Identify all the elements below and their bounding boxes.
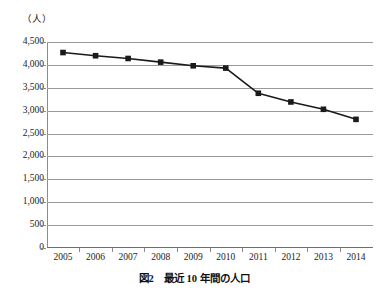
y-axis-tick-label: 3,000: [4, 105, 44, 115]
y-axis-tick-label: 2,500: [4, 128, 44, 138]
gridline: [47, 88, 373, 89]
y-axis-tick-mark: [41, 225, 46, 226]
y-axis-tick-mark: [41, 88, 46, 89]
figure-population-chart: （人） 図2 最近 10 年間の人口 4,5004,0003,5003,0002…: [0, 0, 388, 292]
y-axis-tick-mark: [41, 42, 46, 43]
y-axis-tick-label: 500: [4, 219, 44, 229]
gridline: [47, 179, 373, 180]
gridline: [47, 225, 373, 226]
y-axis-line: [47, 42, 48, 248]
y-axis-tick-label: 1,000: [4, 196, 44, 206]
y-axis-tick-mark: [41, 156, 46, 157]
y-axis-tick-mark: [41, 134, 46, 135]
gridline: [47, 156, 373, 157]
y-axis-unit-label: （人）: [22, 11, 52, 25]
y-axis-tick-mark: [41, 202, 46, 203]
x-axis-tick-label: 2014: [333, 252, 379, 262]
y-axis-tick-mark: [41, 248, 46, 249]
gridline: [47, 65, 373, 66]
plot-area: [47, 42, 373, 248]
figure-caption: 図2 最近 10 年間の人口: [0, 270, 388, 285]
y-axis-tick-label: 3,500: [4, 82, 44, 92]
y-axis-tick-label: 2,000: [4, 150, 44, 160]
y-axis-tick-label: 1,500: [4, 173, 44, 183]
gridline: [47, 42, 373, 43]
gridline: [47, 134, 373, 135]
y-axis-tick-label: 4,500: [4, 36, 44, 46]
gridline: [47, 202, 373, 203]
y-axis-tick-label: 0: [4, 242, 44, 252]
y-axis-tick-label: 4,000: [4, 59, 44, 69]
y-axis-tick-mark: [41, 111, 46, 112]
gridline: [47, 111, 373, 112]
y-axis-tick-mark: [41, 179, 46, 180]
y-axis-tick-mark: [41, 65, 46, 66]
